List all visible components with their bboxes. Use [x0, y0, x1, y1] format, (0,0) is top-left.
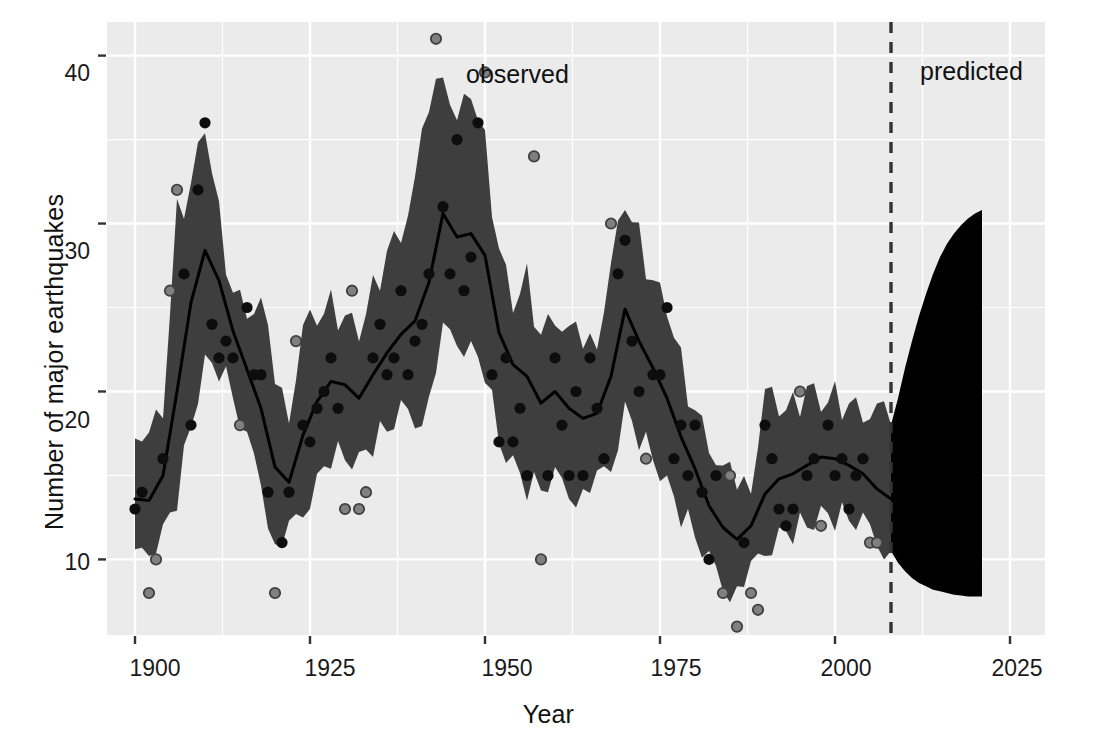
earthquake-forecast-chart: Number of major earthquakes Year 40 30 2…: [0, 0, 1097, 743]
x-tick-label-2025: 2025: [972, 655, 1062, 682]
annotation-predicted: predicted: [920, 57, 1023, 86]
y-tick-label-40: 40: [30, 60, 90, 87]
y-tick-label-10: 10: [30, 549, 90, 576]
annotation-observed: observed: [466, 60, 569, 89]
x-tick-label-1900: 1900: [110, 655, 200, 682]
y-tick-label-20: 20: [30, 407, 90, 434]
y-tick-label-30: 30: [30, 238, 90, 265]
x-axis-title: Year: [0, 700, 1097, 729]
plot-panel: [0, 0, 1097, 743]
x-tick-label-2000: 2000: [801, 655, 891, 682]
x-tick-label-1925: 1925: [285, 655, 375, 682]
x-tick-label-1975: 1975: [631, 655, 721, 682]
x-tick-label-1950: 1950: [462, 655, 552, 682]
